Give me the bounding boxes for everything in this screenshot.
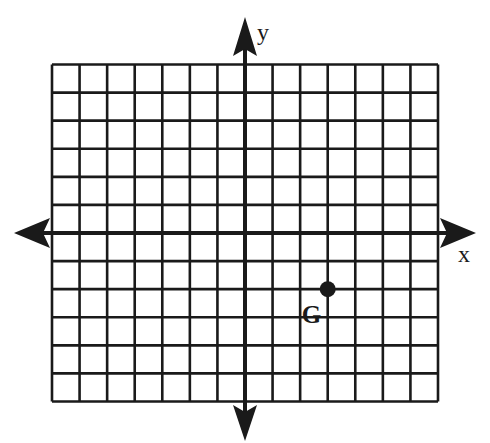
y-axis: [233, 17, 257, 441]
x-axis-label: x: [458, 241, 470, 267]
point-g-label: G: [302, 301, 321, 328]
y-axis-label: y: [257, 19, 269, 45]
point-g-marker: [320, 281, 336, 297]
coordinate-plane: x y G: [0, 0, 490, 443]
